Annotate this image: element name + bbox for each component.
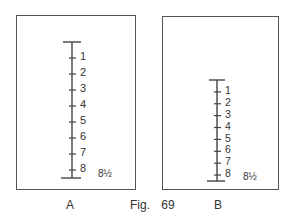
scale-b-tick-label-7: 7 [225, 155, 231, 167]
scale-a-tick-label-6: 6 [80, 130, 86, 142]
scale-a: 123456788½ [61, 42, 113, 179]
scales-drawing: 123456788½ 123456788½ [0, 0, 293, 222]
scale-a-tick-label-8: 8 [80, 162, 86, 174]
scale-b-tick-label-2: 2 [225, 96, 231, 108]
panel-b-label: B [214, 198, 222, 212]
scale-a-tick-label-3: 3 [80, 82, 86, 94]
figure-caption-prefix: Fig. [130, 198, 150, 212]
scale-b: 123456788½ [207, 80, 258, 182]
scale-b-tick-label-5: 5 [225, 132, 231, 144]
scale-a-tick-label-1: 1 [80, 50, 86, 62]
scale-b-tick-label-1: 1 [225, 84, 231, 96]
scale-a-tick-label-4: 4 [80, 98, 86, 110]
scale-b-tick-label-4: 4 [225, 120, 231, 132]
figure-caption-number: 69 [161, 198, 174, 212]
scale-a-tick-label-5: 5 [80, 114, 86, 126]
scale-a-tick-label-2: 2 [80, 66, 86, 78]
scale-b-tick-label-3: 3 [225, 108, 231, 120]
scale-b-tick-label-6: 6 [225, 143, 231, 155]
scale-b-end-label: 8½ [243, 171, 258, 182]
scale-b-tick-label-8: 8 [225, 167, 231, 179]
scale-a-tick-label-7: 7 [80, 146, 86, 158]
scale-a-end-label: 8½ [98, 168, 113, 179]
figure-caption: Fig. 69 [130, 198, 175, 212]
panel-a-label: A [66, 198, 74, 212]
